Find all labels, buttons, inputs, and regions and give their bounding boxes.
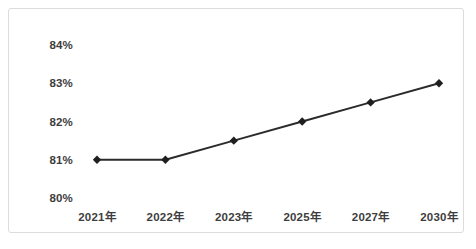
data-point-marker[interactable] (435, 79, 443, 87)
data-point-marker[interactable] (230, 136, 238, 144)
y-axis-tick-label: 83% (27, 77, 73, 89)
data-point-marker[interactable] (298, 117, 306, 125)
data-point-markers (93, 79, 443, 164)
x-axis-tick-label: 2023年 (215, 208, 253, 224)
data-point-marker[interactable] (366, 98, 374, 106)
chart-plot-area (9, 9, 465, 234)
x-axis-tick-label: 2021年 (78, 208, 116, 224)
x-axis-tick-label: 2022年 (147, 208, 185, 224)
y-axis-tick-label: 84% (27, 39, 73, 51)
data-series-line (97, 83, 439, 160)
series-line (97, 83, 439, 160)
line-chart: 84%83%82%81%80% 2021年2022年2023年2025年2027… (9, 9, 465, 234)
y-axis-tick-label: 80% (27, 192, 73, 204)
y-axis-tick-label: 81% (27, 154, 73, 166)
x-axis-tick-label: 2025年 (283, 208, 321, 224)
y-axis-tick-label: 82% (27, 116, 73, 128)
chart-card: 84%83%82%81%80% 2021年2022年2023年2025年2027… (8, 8, 464, 233)
data-point-marker[interactable] (93, 156, 101, 164)
data-point-marker[interactable] (161, 156, 169, 164)
x-axis-tick-label: 2027年 (352, 208, 390, 224)
x-axis-tick-label: 2030年 (420, 208, 458, 224)
